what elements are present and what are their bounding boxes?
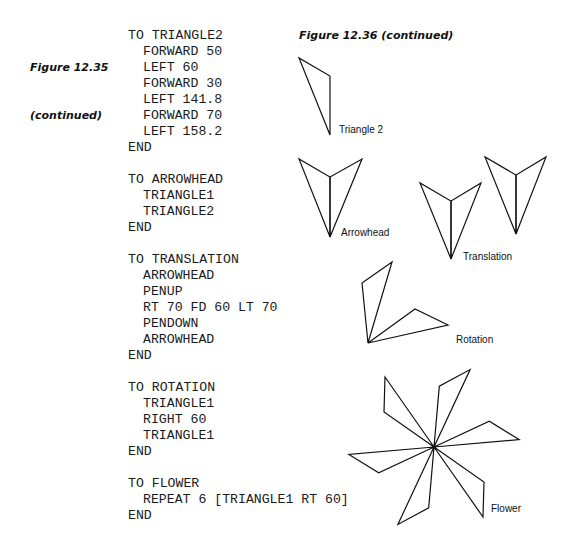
translation-label: Translation xyxy=(463,251,512,262)
triangle2-label: Triangle 2 xyxy=(339,124,383,135)
flower-label: Flower xyxy=(491,503,521,514)
turtle-figures xyxy=(0,0,570,551)
flower-figure xyxy=(348,369,519,526)
arrowhead-figure xyxy=(299,159,362,237)
translation-figure xyxy=(420,157,546,259)
triangle2-figure xyxy=(299,58,330,135)
rotation-figure xyxy=(362,262,448,343)
arrowhead-label: Arrowhead xyxy=(341,227,389,238)
rotation-label: Rotation xyxy=(456,334,493,345)
